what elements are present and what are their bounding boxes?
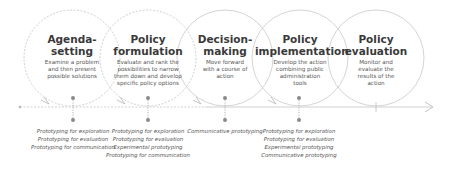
method-item: Experimental prototyping [104,143,192,151]
stage-policy-implementation: Policy implementation Develop the action… [255,33,345,87]
method-item: Prototyping for exploration [257,127,341,135]
stage-title: Policy implementation [255,33,345,57]
stage-description: Develop the action combining public admi… [255,59,345,87]
stage-policy-evaluation: Policy evaluation Monitor and evaluate t… [340,33,412,87]
stage-description: Monitor and evaluate the results of the … [340,59,412,87]
stage-title: Policy formulation [106,33,190,57]
stage-title: Agenda- setting [32,33,112,57]
stage-title: Decision- making [185,33,265,57]
stage-agenda-setting: Agenda- setting Examine a problem and th… [32,33,112,80]
methods-policy-implementation: Prototyping for exploration Prototyping … [257,127,341,159]
method-item: Communicative prototyping [257,151,341,159]
connector-dots [71,96,301,122]
methods-decision-making: Communicative prototyping [183,127,267,135]
stage-description: Move forward with a course of action [185,59,265,80]
stage-policy-formulation: Policy formulation Evaluate and rank the… [106,33,190,87]
method-item: Experimental prototyping [257,143,341,151]
method-item: Prototyping for evaluation [257,135,341,143]
stage-decision-making: Decision- making Move forward with a cou… [185,33,265,80]
stage-description: Evaluate and rank the possibilities to n… [106,59,190,87]
methods-policy-formulation: Prototyping for exploration Prototyping … [104,127,192,159]
stage-description: Examine a problem and then present possi… [32,59,112,80]
stage-title: Policy evaluation [340,33,412,57]
method-item: Communicative prototyping [183,127,267,135]
method-item: Prototyping for communication [104,151,192,159]
method-item: Prototyping for evaluation [104,135,192,143]
method-item: Prototyping for exploration [104,127,192,135]
